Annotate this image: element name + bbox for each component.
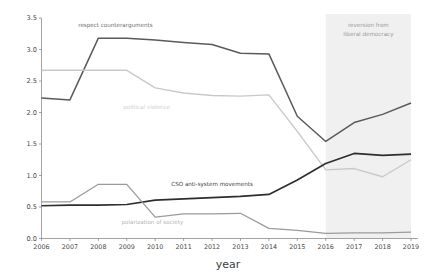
y-tick-label: 3.0 [27, 46, 38, 54]
x-tick-label: 2012 [204, 243, 220, 251]
x-axis-title: year [216, 258, 241, 271]
x-tick-label: 2013 [232, 243, 248, 251]
x-tick-label: 2016 [318, 243, 334, 251]
x-tick-label: 2014 [261, 243, 277, 251]
annotation-text-group: reversion fromliberal democracy [343, 22, 394, 38]
line-chart: 0.00.51.01.52.02.53.03.5 200620072008200… [0, 0, 431, 277]
series-label-political-violence: political violence [123, 104, 171, 111]
y-tick-label: 1.5 [27, 140, 38, 148]
series-label-respect-counterarguments: respect counterarguments [78, 22, 152, 29]
y-tick-label: 2.5 [27, 77, 38, 85]
x-tick-label: 2011 [175, 243, 191, 251]
x-tick-label: 2009 [119, 243, 135, 251]
shaded-region-group [326, 14, 411, 239]
chart-container: 0.00.51.01.52.02.53.03.5 200620072008200… [0, 0, 431, 277]
series-label-polarization-of-society: polarization of society [121, 219, 183, 226]
y-tick-label: 1.0 [27, 172, 38, 180]
x-tick-label: 2019 [403, 243, 419, 251]
annotation-line-2: liberal democracy [343, 31, 394, 38]
x-tick-label: 2018 [374, 243, 390, 251]
x-tick-label: 2017 [346, 243, 362, 251]
x-tick-label: 2015 [289, 243, 305, 251]
y-tick-label: 0.0 [27, 235, 38, 243]
reversion-band [326, 14, 411, 239]
x-tick-label: 2007 [62, 243, 78, 251]
annotation-line-1: reversion from [348, 22, 389, 28]
y-tick-label: 2.0 [27, 109, 38, 117]
x-tick-label: 2008 [90, 243, 106, 251]
y-tick-label: 3.5 [27, 14, 38, 22]
x-tick-label: 2010 [147, 243, 163, 251]
y-tick-label: 0.5 [27, 203, 38, 211]
series-label-cso-anti-system-movements: CSO anti-system movements [171, 181, 253, 188]
x-tick-label: 2006 [33, 243, 49, 251]
